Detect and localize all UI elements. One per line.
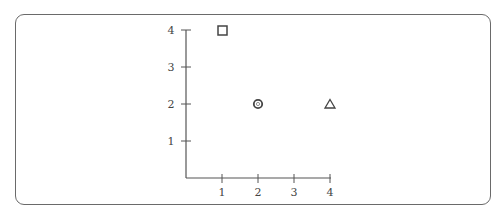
triangle-marker [325, 100, 335, 109]
y-tick-label: 2 [168, 98, 175, 111]
square-marker [218, 26, 227, 35]
x-tick-label: 3 [291, 186, 298, 199]
x-tick-label: 2 [255, 186, 262, 199]
y-tick-label: 4 [168, 24, 175, 37]
scatter-plot: 4 3 2 1 1 2 3 4 [0, 0, 504, 214]
double-circle-marker [254, 100, 262, 108]
y-tick-label: 3 [168, 61, 175, 74]
x-tick-label: 4 [327, 186, 334, 199]
y-tick-label: 1 [168, 135, 175, 148]
x-tick-label: 1 [219, 186, 226, 199]
y-ticks: 4 3 2 1 [168, 24, 192, 148]
